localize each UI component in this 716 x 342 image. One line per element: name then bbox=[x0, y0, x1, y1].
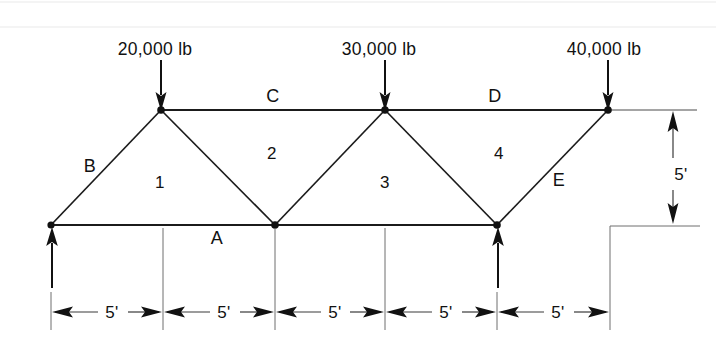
truss-diagram-canvas: 20,000 lb 30,000 lb 40,000 lb B C D E A … bbox=[0, 0, 716, 342]
dimension-span-1: 5' bbox=[52, 303, 162, 322]
load-label-30k: 30,000 lb bbox=[342, 39, 417, 59]
dimension-label-span-5: 5' bbox=[551, 303, 564, 322]
joint-dot-top-mid bbox=[381, 106, 389, 114]
dimension-label-span-1: 5' bbox=[105, 303, 118, 322]
member-label-B: B bbox=[84, 156, 96, 176]
dimension-label-span-2: 5' bbox=[217, 303, 230, 322]
truss-diagram-svg: 20,000 lb 30,000 lb 40,000 lb B C D E A … bbox=[0, 0, 716, 342]
reaction-arrow-left bbox=[46, 227, 58, 288]
dimension-span-4: 5' bbox=[386, 303, 496, 322]
dimension-span-3: 5' bbox=[276, 303, 384, 322]
joint-dot-top-left bbox=[157, 106, 165, 114]
member-diag-3 bbox=[275, 110, 385, 225]
panel-label-1: 1 bbox=[155, 173, 165, 192]
panel-label-2: 2 bbox=[267, 144, 277, 163]
dimension-label-span-3: 5' bbox=[328, 303, 341, 322]
dimension-label-span-4: 5' bbox=[439, 303, 452, 322]
load-arrow-30k bbox=[380, 60, 391, 111]
load-label-40k: 40,000 lb bbox=[567, 39, 642, 59]
joint-label-A: A bbox=[211, 228, 223, 248]
dimension-label-height: 5' bbox=[674, 165, 687, 184]
load-label-20k: 20,000 lb bbox=[118, 39, 193, 59]
dimension-span-5: 5' bbox=[498, 303, 609, 322]
member-diag-2 bbox=[161, 110, 275, 225]
joint-dot-bottom-right bbox=[493, 221, 501, 229]
load-arrow-20k bbox=[156, 60, 167, 111]
panel-label-4: 4 bbox=[494, 144, 504, 163]
panel-label-3: 3 bbox=[380, 173, 390, 192]
load-arrow-40k bbox=[603, 60, 614, 111]
dimension-span-2: 5' bbox=[164, 303, 274, 322]
member-label-D: D bbox=[488, 86, 501, 106]
member-diag-4 bbox=[385, 110, 497, 225]
member-label-C: C bbox=[266, 86, 279, 106]
member-label-E: E bbox=[553, 170, 565, 190]
joint-dot-bottom-mid bbox=[271, 221, 279, 229]
dimension-height: 5' bbox=[668, 111, 688, 224]
member-E-line bbox=[497, 110, 608, 225]
reaction-arrow-right bbox=[492, 227, 504, 288]
joint-dot-top-right bbox=[604, 106, 612, 114]
joint-dot-bottom-left bbox=[47, 221, 54, 228]
member-B-line bbox=[51, 110, 161, 225]
